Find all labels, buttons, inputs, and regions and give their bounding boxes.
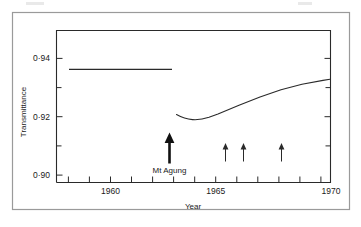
- scan-artifact-right: [298, 2, 312, 5]
- figure-container: 0·94 0·92 0·90 Transmittance 1960 1965 1…: [0, 0, 361, 227]
- y-axis-title: Transmittance: [19, 86, 28, 137]
- transmittance-vs-year-chart: 0·94 0·92 0·90 Transmittance 1960 1965 1…: [0, 0, 361, 227]
- x-tick-label-1960: 1960: [101, 186, 120, 196]
- y-tick-label-0-92: 0·92: [33, 112, 50, 122]
- y-tick-label-0-90: 0·90: [33, 170, 50, 180]
- mt-agung-label: Mt Agung: [153, 166, 187, 175]
- canvas-background: [0, 0, 361, 227]
- scan-artifact-left: [26, 2, 44, 5]
- y-tick-label-0-94: 0·94: [33, 53, 50, 63]
- x-tick-label-1965: 1965: [206, 186, 225, 196]
- x-tick-label-1970: 1970: [322, 186, 341, 196]
- x-axis-title: Year: [185, 202, 202, 211]
